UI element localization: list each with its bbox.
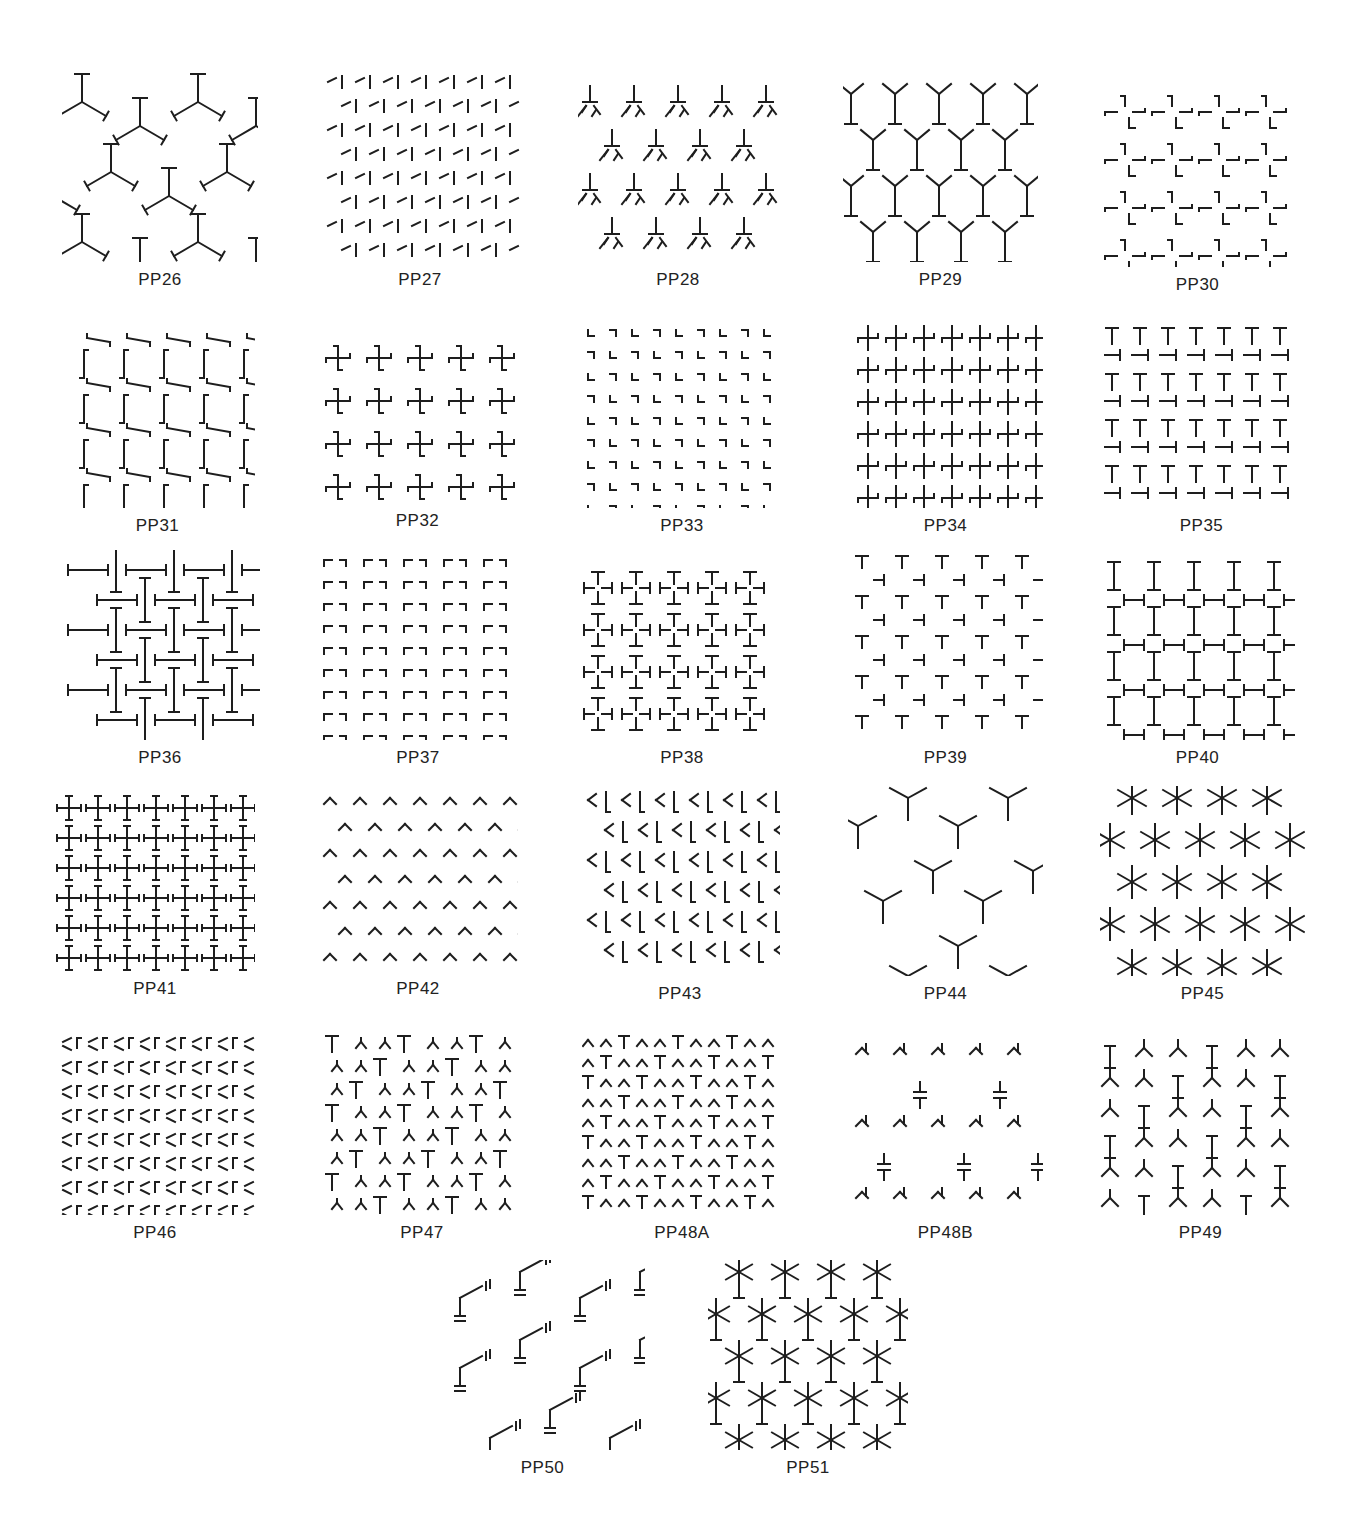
panel-caption: PP49: [1098, 1223, 1303, 1243]
pattern-panel: PP45: [1100, 786, 1305, 1010]
alternating-t-bars-pattern: [1104, 318, 1299, 508]
panel-caption: PP31: [60, 516, 255, 536]
pattern-panel: PP32: [320, 318, 515, 537]
panel-caption: PP33: [582, 516, 782, 536]
pattern-panel: PP30: [1100, 72, 1295, 301]
panel-caption: PP51: [708, 1458, 908, 1478]
panel-caption: PP45: [1100, 984, 1305, 1004]
panel-caption: PP35: [1104, 516, 1299, 536]
pattern-panel: PP37: [318, 550, 518, 774]
pattern-panel: PP49: [1098, 1030, 1303, 1249]
panel-caption: PP50: [440, 1458, 645, 1478]
pattern-panel: PP42: [318, 786, 518, 1005]
panel-caption: PP43: [580, 984, 780, 1004]
dense-corner-brackets-pattern: [582, 318, 782, 508]
rotated-hooks-pattern: [580, 786, 780, 976]
l-corner-crosses-pattern: [1100, 72, 1295, 267]
panel-caption: PP29: [843, 270, 1038, 290]
panel-caption: PP41: [55, 979, 255, 999]
panel-caption: PP39: [848, 748, 1043, 768]
pattern-panel: PP50: [440, 1260, 645, 1484]
sparse-hexagon-caps-pattern: [848, 1030, 1043, 1215]
panel-caption: PP48B: [848, 1223, 1043, 1243]
pattern-panel: PP41: [55, 786, 255, 1005]
hexagonal-corner-hooks-pattern: [320, 72, 520, 262]
pattern-panel: PP43: [580, 786, 780, 1010]
pattern-panel: PP27: [320, 72, 520, 296]
capped-plus-grid-pattern: [55, 786, 255, 971]
pinwheel-crosses-pattern: [320, 318, 515, 503]
pattern-panel: PP29: [843, 72, 1038, 296]
pattern-panel: PP28: [578, 72, 778, 296]
panel-caption: PP48A: [582, 1223, 782, 1243]
pattern-panel: PP26: [62, 72, 258, 296]
panel-caption: PP44: [848, 984, 1043, 1004]
panel-caption: PP26: [62, 270, 258, 290]
pattern-panel: PP34: [848, 318, 1043, 542]
panel-caption: PP36: [60, 748, 260, 768]
diagonal-t-lattice-pattern: [848, 550, 1043, 740]
pattern-panel: PP35: [1104, 318, 1299, 542]
panel-caption: PP37: [318, 748, 518, 768]
pattern-panel: PP44: [848, 786, 1043, 1010]
panel-caption: PP28: [578, 270, 778, 290]
panel-caption: PP27: [320, 270, 520, 290]
pattern-panel: PP47: [322, 1030, 522, 1249]
bracket-lattice-pattern: [318, 550, 518, 740]
pattern-panel: PP38: [582, 550, 782, 774]
panel-caption: PP46: [55, 1223, 255, 1243]
i-beam-hex-network-pattern: [1098, 1030, 1303, 1215]
hexagon-y-network-pattern: [843, 72, 1038, 262]
panel-caption: PP32: [320, 511, 515, 531]
panel-caption: PP30: [1100, 275, 1295, 295]
i-beam-square-grid-pattern: [1100, 550, 1295, 740]
woven-i-beams-pattern: [60, 550, 260, 740]
pattern-panel: PP36: [60, 550, 260, 774]
pattern-panel: PP51: [708, 1260, 908, 1484]
staggered-z-hooks-pattern: [60, 318, 255, 508]
t-cross-clusters-pattern: [582, 550, 782, 740]
hexagon-capacitor-network-pattern: [440, 1260, 645, 1450]
tripod-y-bars-pattern: [62, 72, 258, 262]
pattern-panel: PP40: [1100, 550, 1295, 774]
panel-caption: PP42: [318, 979, 518, 999]
pattern-panel: PP39: [848, 550, 1043, 774]
large-hexagon-y-pattern: [848, 786, 1043, 976]
panel-caption: PP47: [322, 1223, 522, 1243]
pattern-panel: PP48A: [582, 1030, 782, 1249]
pinwheel-grid-pattern: [848, 318, 1043, 508]
dense-lambda-rows-pattern: [582, 1030, 782, 1215]
panel-caption: PP40: [1100, 748, 1295, 768]
asterisk-i-beam-lattice-pattern: [708, 1260, 908, 1450]
pattern-panel: PP48B: [848, 1030, 1043, 1249]
chevron-hooks-pattern: [318, 786, 518, 971]
pattern-panel: PP31: [60, 318, 255, 542]
asterisk-stars-pattern: [1100, 786, 1305, 976]
panel-caption: PP38: [582, 748, 782, 768]
pattern-panel: PP33: [582, 318, 782, 542]
dense-x-brackets-pattern: [55, 1030, 255, 1215]
inverted-t-with-lambdas-pattern: [578, 72, 778, 262]
pattern-panel: PP46: [55, 1030, 255, 1249]
t-and-y-rows-pattern: [322, 1030, 522, 1215]
panel-caption: PP34: [848, 516, 1043, 536]
